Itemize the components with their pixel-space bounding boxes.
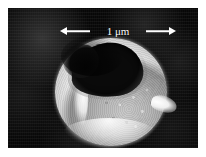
upper-shadow bbox=[61, 36, 123, 76]
sem-micrograph-figure: 1 μm bbox=[0, 0, 206, 157]
arrow-left-icon bbox=[60, 27, 67, 35]
scale-bar: 1 μm bbox=[66, 23, 170, 39]
bottom-rim-highlight bbox=[63, 118, 155, 148]
micrograph-image: 1 μm bbox=[8, 8, 198, 148]
microsphere-particle bbox=[55, 38, 167, 146]
scale-bar-label: 1 μm bbox=[104, 26, 133, 37]
arrow-right-icon bbox=[169, 27, 176, 35]
